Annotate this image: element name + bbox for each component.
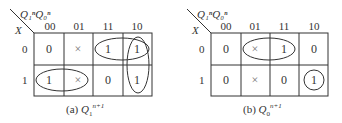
col-header: 01 [245, 21, 265, 32]
cell: 1 [304, 74, 324, 86]
cell: × [245, 74, 265, 86]
col-var-label: Q₁ⁿQ₀ⁿ [20, 9, 50, 20]
cell: 0 [216, 43, 236, 55]
cell: 0 [274, 74, 294, 86]
col-header: 11 [98, 21, 118, 32]
cell: × [245, 43, 265, 55]
col-var-label: Q₁ⁿQ₀ⁿ [197, 9, 227, 20]
cell: 0 [39, 43, 59, 55]
cell: × [68, 74, 88, 86]
row-var-label: X [15, 25, 22, 36]
cell: 1 [127, 74, 147, 86]
kmap-a: Q₁ⁿQ₀ⁿ X 00 01 11 10 0 1 0 × 1 1 1 × 0 1… [0, 0, 171, 123]
col-header: 10 [304, 21, 324, 32]
row-header: 0 [22, 44, 28, 55]
cell: × [68, 43, 88, 55]
cell: 0 [216, 74, 236, 86]
cell: 0 [304, 43, 324, 55]
kmap-b: Q₁ⁿQ₀ⁿ X 00 01 11 10 0 1 0 × 1 0 0 × 0 1… [171, 0, 342, 123]
cell: 1 [98, 43, 118, 55]
row-header: 1 [22, 75, 28, 86]
row-header: 0 [199, 44, 205, 55]
cell: 1 [274, 43, 294, 55]
row-var-label: X [192, 25, 199, 36]
caption: (b) Q0n+1 [243, 102, 282, 118]
col-header: 11 [274, 21, 294, 32]
col-header: 00 [216, 21, 236, 32]
cell: 1 [127, 43, 147, 55]
col-header: 00 [40, 21, 60, 32]
cell: 0 [98, 74, 118, 86]
cell: 1 [39, 74, 59, 86]
caption: (a) Q1n+1 [66, 102, 104, 118]
col-header: 10 [127, 21, 147, 32]
col-header: 01 [69, 21, 89, 32]
row-header: 1 [199, 75, 205, 86]
